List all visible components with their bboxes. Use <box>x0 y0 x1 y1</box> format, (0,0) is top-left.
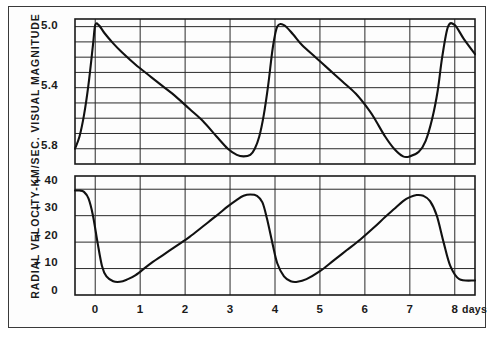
plot-stack: RADIAL VELOCITY-KM/SEC. VISUAL MAGNITUDE… <box>0 0 494 337</box>
x-tick-label-day-5: 5 <box>317 303 324 315</box>
y-tick-label-plus-10: + 10 <box>34 256 58 268</box>
y-tick-label-5-8: 5.8 <box>41 139 58 151</box>
x-tick-label-day-0: 0 <box>92 303 99 315</box>
x-tick-label-day-3: 3 <box>227 303 234 315</box>
x-unit-label: days <box>462 303 487 315</box>
radial-velocity-panel <box>75 176 475 295</box>
light-curve-panel <box>75 19 475 164</box>
y-tick-label-plus-30: + 30 <box>34 201 58 213</box>
y-tick-label-zero: 0 <box>51 284 58 296</box>
x-tick-label-day-6: 6 <box>362 303 369 315</box>
y-tick-label-5-4: 5.4 <box>41 79 58 91</box>
plots-svg <box>0 0 494 337</box>
y-tick-label-plus-20: + 20 <box>34 229 58 241</box>
x-tick-label-day-1: 1 <box>137 303 144 315</box>
y-tick-label-plus-40: + 40 <box>34 174 58 186</box>
x-tick-label-day-4: 4 <box>272 303 279 315</box>
x-tick-label-day-8: 8 <box>451 303 458 315</box>
y-tick-label-5-0: 5.0 <box>41 19 58 31</box>
cepheid-variable-figure: RADIAL VELOCITY-KM/SEC. VISUAL MAGNITUDE… <box>0 0 494 337</box>
x-tick-label-day-7: 7 <box>406 303 413 315</box>
x-tick-label-day-2: 2 <box>182 303 189 315</box>
top-axis-labels: 5.0 5.4 5.8 + 40 + 30 + 20 + 10 0 <box>0 0 58 337</box>
